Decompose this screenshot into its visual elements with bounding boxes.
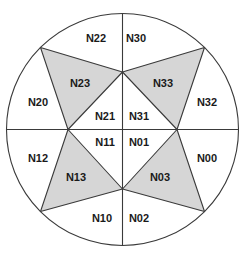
region-label-N31: N31 — [129, 110, 149, 122]
region-label-N12: N12 — [28, 152, 48, 164]
region-label-N02: N02 — [129, 212, 149, 224]
region-label-N11: N11 — [95, 136, 115, 148]
region-label-N01: N01 — [129, 136, 149, 148]
region-label-N03: N03 — [150, 171, 170, 183]
region-label-N30: N30 — [126, 32, 146, 44]
circle-partition-svg: N23N33N13N03N22N30N20N32N21N31N11N01N12N… — [0, 0, 245, 258]
region-label-N20: N20 — [28, 96, 48, 108]
region-label-N33: N33 — [153, 77, 173, 89]
region-label-N22: N22 — [86, 32, 106, 44]
partition-diagram-figure: N23N33N13N03N22N30N20N32N21N31N11N01N12N… — [0, 0, 245, 258]
region-label-N10: N10 — [92, 212, 112, 224]
region-label-N23: N23 — [70, 77, 90, 89]
region-label-N00: N00 — [197, 152, 217, 164]
region-label-N32: N32 — [197, 96, 217, 108]
region-label-N21: N21 — [95, 110, 115, 122]
region-label-N13: N13 — [66, 171, 86, 183]
